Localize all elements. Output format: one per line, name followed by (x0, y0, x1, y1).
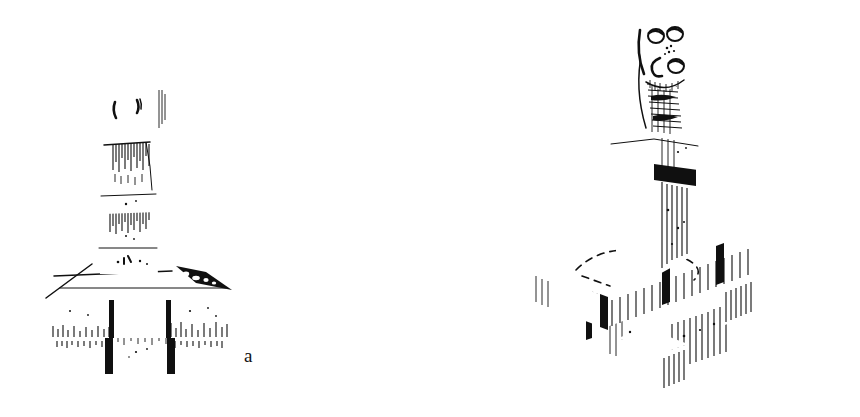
base-joint-right (166, 300, 171, 338)
base-slab-right-joint-2 (716, 243, 724, 285)
base-joint-lower-left (105, 338, 113, 374)
head-top-facet (102, 74, 162, 86)
head-eye-mark-right (137, 100, 139, 113)
base-slab-front-corner-joint (600, 294, 608, 330)
pedestal-front-face (616, 172, 656, 276)
figure-a-head (95, 74, 168, 145)
face-nose-dot (666, 47, 669, 50)
figure-a: a (0, 0, 470, 417)
base-outer-left-block-side (532, 310, 566, 358)
figure-a-neck-shaft (102, 140, 152, 193)
face-nose-dot (670, 45, 672, 47)
figure-b-pedestal (616, 172, 692, 276)
figure-b: b (470, 0, 860, 417)
illustration-page: a (0, 0, 860, 417)
base-joint-left (109, 300, 114, 338)
figure-a-caption: a (244, 346, 252, 365)
base-block-mid-centre (112, 300, 168, 338)
neck-shaft-body (102, 140, 152, 193)
base-block-mid-right (168, 300, 230, 338)
figure-a-lower-collar (98, 243, 158, 274)
head-front-face (95, 79, 158, 145)
figure-a-drawing (0, 0, 470, 417)
head-face-panel (640, 14, 688, 90)
figure-a-base (50, 300, 230, 374)
face-nose-dot (673, 50, 675, 52)
figure-b-drawing (470, 0, 860, 417)
face-nose-dot (664, 53, 666, 55)
face-nose-dot (668, 51, 670, 53)
base-joint-lower-right (167, 338, 175, 374)
base-block-mid-left (50, 300, 112, 338)
